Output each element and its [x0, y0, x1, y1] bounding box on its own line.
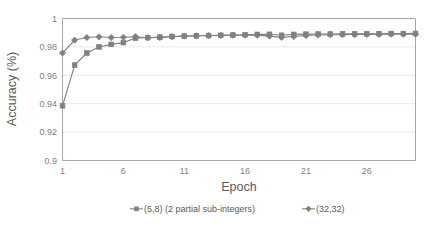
data-point-square [60, 104, 65, 109]
y-tick-label: 0.94 [39, 99, 57, 109]
data-point-diamond [84, 34, 90, 40]
y-axis-title: Accuracy (%) [5, 52, 19, 126]
data-point-square [97, 45, 102, 50]
legend-label: (5,8) (2 partial sub-integers) [144, 204, 255, 214]
legend-marker-square [134, 207, 139, 212]
chart-legend: (5,8) (2 partial sub-integers)(32,32) [130, 204, 345, 214]
series-line [63, 33, 416, 105]
series-1 [60, 31, 418, 108]
x-tick-label: 21 [301, 166, 311, 176]
legend-marker-diamond [305, 206, 311, 212]
chart-canvas: 0.90.920.940.960.981 1611162126 Accuracy… [0, 0, 426, 229]
legend-label: (32,32) [316, 204, 345, 214]
x-tick-label: 11 [180, 166, 189, 176]
plot-frame [63, 19, 416, 161]
data-point-square [109, 42, 114, 47]
data-point-diamond [108, 34, 114, 40]
data-series-group [59, 31, 418, 108]
y-axis-ticks-group: 0.90.920.940.960.981 [39, 14, 57, 166]
data-point-square [85, 51, 90, 56]
y-tick-label: 0.98 [39, 42, 57, 52]
x-tick-label: 26 [362, 166, 372, 176]
x-axis-ticks-group: 1611162126 [60, 166, 372, 176]
data-point-diamond [96, 34, 102, 40]
x-axis-title: Epoch [221, 180, 256, 194]
y-tick-label: 1 [52, 14, 57, 24]
data-point-square [121, 40, 126, 45]
gridlines-group [63, 47, 416, 161]
legend-item-1[interactable]: (5,8) (2 partial sub-integers) [130, 204, 255, 214]
data-point-square [72, 63, 77, 68]
y-tick-label: 0.96 [39, 71, 57, 81]
y-tick-label: 0.92 [39, 127, 57, 137]
y-tick-label: 0.9 [44, 156, 57, 166]
legend-item-2[interactable]: (32,32) [302, 204, 345, 214]
x-tick-label: 6 [121, 166, 126, 176]
x-tick-label: 1 [60, 166, 65, 176]
data-point-diamond [120, 34, 126, 40]
x-tick-label: 16 [240, 166, 250, 176]
accuracy-vs-epoch-chart: 0.90.920.940.960.981 1611162126 Accuracy… [0, 0, 426, 229]
